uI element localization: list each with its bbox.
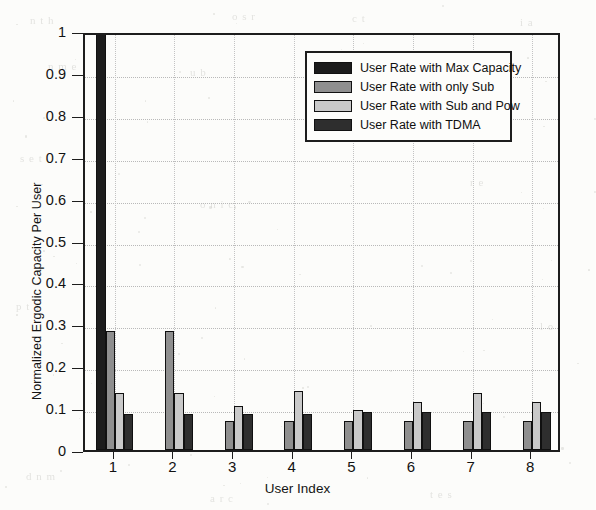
legend-item: User Rate with Sub and Pow: [314, 96, 503, 115]
bar: [303, 414, 312, 450]
bar: [532, 402, 541, 450]
legend-swatch-icon: [314, 81, 352, 93]
x-axis-tick-label: 3: [217, 458, 247, 475]
y-axis-tick: [72, 75, 83, 76]
y-axis-tick-label: 0.3: [22, 318, 66, 333]
bar: [284, 421, 293, 450]
bar: [106, 331, 115, 450]
bar: [124, 414, 133, 450]
bar: [422, 412, 431, 450]
x-axis-tick-label: 7: [456, 458, 486, 475]
x-axis-title: User Index: [0, 481, 595, 496]
bar: [523, 421, 532, 450]
bar: [363, 412, 372, 450]
gridline-horizontal: [85, 203, 558, 205]
x-axis-tick-label: 2: [157, 458, 187, 475]
legend-item: User Rate with TDMA: [314, 115, 503, 134]
bar: [174, 393, 183, 450]
y-axis-tick: [72, 326, 83, 327]
gridline-horizontal: [85, 286, 558, 288]
y-axis-tick-label: 0.9: [22, 67, 66, 82]
y-axis-tick-label: 1: [22, 25, 66, 40]
y-axis-tick-label: 0.4: [22, 276, 66, 291]
legend-item-label: User Rate with TDMA: [360, 118, 481, 132]
bar: [115, 393, 124, 450]
y-axis-tick-label: 0.6: [22, 193, 66, 208]
gridline-vertical: [234, 35, 236, 450]
x-axis-tick-label: 6: [396, 458, 426, 475]
legend-swatch-icon: [314, 62, 352, 74]
bar: [184, 414, 193, 450]
bar: [482, 412, 491, 450]
y-axis-tick: [72, 159, 83, 160]
legend-item: User Rate with Max Capacity: [314, 58, 503, 77]
gridline-vertical: [532, 35, 534, 450]
bar: [413, 402, 422, 450]
bar: [473, 393, 482, 450]
legend-item-label: User Rate with Sub and Pow: [360, 99, 520, 113]
y-axis-tick: [72, 201, 83, 202]
x-axis-tick-label: 4: [277, 458, 307, 475]
legend-item-label: User Rate with only Sub: [360, 80, 494, 94]
y-axis-tick: [72, 33, 83, 34]
y-axis-tick: [72, 368, 83, 369]
bar: [344, 421, 353, 450]
gridline-vertical: [115, 35, 117, 450]
bar: [165, 331, 174, 450]
gridline-horizontal: [85, 328, 558, 330]
legend-item: User Rate with only Sub: [314, 77, 503, 96]
bar: [541, 412, 550, 450]
legend-item-label: User Rate with Max Capacity: [360, 61, 521, 75]
y-axis-tick: [72, 243, 83, 244]
y-axis-tick-label: 0.5: [22, 235, 66, 250]
y-axis-tick-label: 0: [22, 444, 66, 459]
legend-swatch-icon: [314, 119, 352, 131]
bar: [243, 414, 252, 450]
bar: [294, 391, 303, 450]
y-axis-tick-label: 0.1: [22, 402, 66, 417]
gridline-horizontal: [85, 245, 558, 247]
bar: [463, 421, 472, 450]
bar: [404, 421, 413, 450]
gridline-horizontal: [85, 370, 558, 372]
bar: [353, 410, 362, 450]
y-axis-tick: [72, 452, 83, 453]
y-axis-tick-label: 0.8: [22, 109, 66, 124]
bar: [234, 406, 243, 450]
legend: User Rate with Max CapacityUser Rate wit…: [305, 51, 512, 142]
y-axis-tick-label: 0.2: [22, 360, 66, 375]
legend-swatch-icon: [314, 100, 352, 112]
y-axis-tick: [72, 410, 83, 411]
x-axis-tick-label: 1: [98, 458, 128, 475]
gridline-horizontal: [85, 161, 558, 163]
x-axis-tick-label: 5: [336, 458, 366, 475]
gridline-vertical: [294, 35, 296, 450]
y-axis-tick: [72, 284, 83, 285]
bar: [225, 421, 234, 450]
gridline-vertical: [174, 35, 176, 450]
y-axis-tick: [72, 117, 83, 118]
x-axis-tick-label: 8: [515, 458, 545, 475]
bar: [96, 33, 105, 450]
y-axis-tick-label: 0.7: [22, 151, 66, 166]
